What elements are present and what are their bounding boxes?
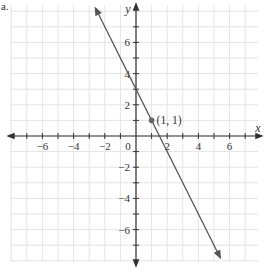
x-axis-label: x [254,121,261,135]
y-tick-label: −6 [118,224,130,236]
x-tick-label: −6 [37,140,49,152]
x-tick-label: −2 [99,140,111,152]
coordinate-plane: −6−4−2246−6−4−22460xy(1, 1) [0,0,266,274]
point-marker [149,118,155,124]
line-series [95,8,220,258]
x-tick-label: 6 [227,140,233,152]
grid [10,5,258,262]
y-tick-label: 6 [125,36,131,48]
y-tick-label: −4 [118,192,130,204]
y-tick-label: −2 [118,161,130,173]
x-tick-label: −4 [68,140,80,152]
point-label: (1, 1) [157,114,182,127]
x-tick-label: 4 [196,140,202,152]
y-axis-label: y [124,2,131,16]
origin-label: 0 [125,140,131,152]
y-tick-label: 2 [125,99,131,111]
